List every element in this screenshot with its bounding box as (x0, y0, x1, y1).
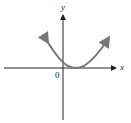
parabola-curve (47, 39, 108, 68)
graph-figure: y x 0 (0, 0, 131, 123)
y-axis-label: y (61, 2, 65, 12)
axes-and-curve (0, 0, 131, 123)
x-axis-label: x (120, 62, 124, 72)
origin-label: 0 (55, 70, 60, 80)
